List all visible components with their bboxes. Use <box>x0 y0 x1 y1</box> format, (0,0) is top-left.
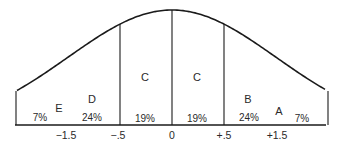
tick-label-minus-1-5: −1.5 <box>56 129 77 141</box>
percent-label-c-left: 19% <box>135 113 155 124</box>
percent-label-c-right: 19% <box>187 113 207 124</box>
grade-label-c-left: C <box>141 71 149 83</box>
percent-label-a: 7% <box>295 113 310 124</box>
tick-label-minus-0-5: −.5 <box>111 129 126 141</box>
tick-label-plus-1-5: +1.5 <box>267 129 288 141</box>
bell-curve <box>17 10 325 90</box>
grade-label-c-right: C <box>193 71 201 83</box>
grade-label-b: B <box>244 93 251 105</box>
grade-label-e: E <box>55 102 62 114</box>
percent-label-e: 7% <box>33 112 48 123</box>
percent-label-d: 24% <box>82 112 102 123</box>
percent-label-b: 24% <box>239 112 259 123</box>
tick-label-plus-0-5: +.5 <box>217 129 232 141</box>
normal-distribution-chart: E D C C B A 7% 24% 19% 19% 24% 7% −1.5 −… <box>0 0 341 150</box>
grade-label-d: D <box>88 93 96 105</box>
tick-label-zero: 0 <box>169 129 175 141</box>
grade-label-a: A <box>275 105 283 117</box>
